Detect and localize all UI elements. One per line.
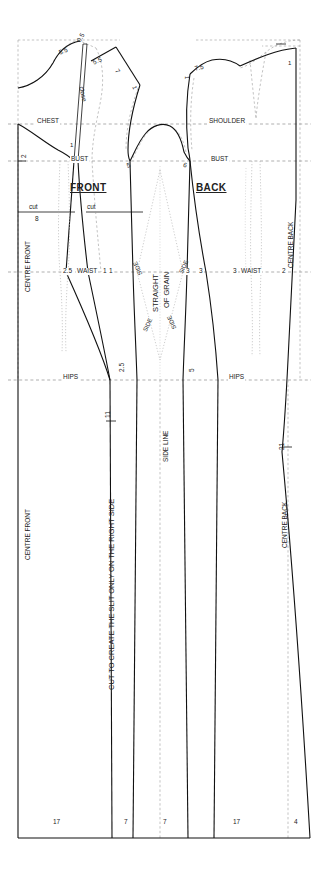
label-centre-back-lower: CENTRE BACK xyxy=(282,502,289,548)
cut-label-left: cut xyxy=(28,204,39,211)
measure-back-neck-tick: 1 xyxy=(288,60,291,66)
measure-hem-side-b: 7 xyxy=(163,819,167,826)
measure-back-vent: 21 xyxy=(279,443,286,450)
pattern-drawing: .sld{fill:none;stroke:#111;stroke-width:… xyxy=(0,0,319,875)
guideline-label-bust-back: BUST xyxy=(210,156,229,163)
piece-title-front: FRONT xyxy=(70,183,106,193)
measure-hips-front: 2.5 xyxy=(119,363,126,372)
back-bodice xyxy=(187,40,310,838)
label-centre-front-upper: CENTRE FRONT xyxy=(25,241,32,292)
measure-front-dart-tick: 1 xyxy=(70,142,73,148)
label-centre-back-upper: CENTRE BACK xyxy=(288,222,295,268)
measure-side-front-seam: 2 xyxy=(21,154,28,158)
label-slit-note: CUT TO CREATE THE SLIT ONLY ON THE RIGHT… xyxy=(108,499,116,690)
guideline-label-waist-front: WAIST xyxy=(76,268,98,275)
cut-label-right: cut xyxy=(86,204,97,211)
side-panel xyxy=(130,124,190,838)
measure-waist-back: 2 xyxy=(281,268,287,275)
measure-waist-back-dart: 3 xyxy=(232,268,238,275)
pattern-sheet: .sld{fill:none;stroke:#111;stroke-width:… xyxy=(0,0,319,875)
measure-waist-front-dart-b: 1 xyxy=(108,268,114,275)
measure-hem-back: 17 xyxy=(233,819,240,826)
guideline-label-waist-back: WAIST xyxy=(240,268,262,275)
label-straight-of-grain-1: STRAIGHT xyxy=(152,274,160,312)
guideline-label-hips-back: HIPS xyxy=(228,374,245,381)
measure-hem-front: 17 xyxy=(53,819,60,826)
measure-bust-front-notch: 5 xyxy=(126,162,131,169)
measure-waist-side-b: 3 xyxy=(198,268,204,275)
label-centre-front-lower: CENTRE FRONT xyxy=(25,509,32,560)
guideline-label-hips-front: HIPS xyxy=(62,374,79,381)
guideline-label-shoulder: SHOULDER xyxy=(208,118,246,125)
tick-marks xyxy=(18,44,286,161)
construction-box xyxy=(18,40,300,380)
measure-waist-front: 2.5 xyxy=(62,268,73,275)
measure-slit-height: 11 xyxy=(105,411,112,418)
measure-waist-side-a: 3 xyxy=(185,268,191,275)
guideline-label-chest: CHEST xyxy=(36,118,60,125)
measure-cut-depth: 8 xyxy=(35,216,39,223)
label-straight-of-grain-2: OF GRAIN xyxy=(163,272,171,308)
measure-waist-front-dart-a: 1 xyxy=(102,268,108,275)
horizontal-guides xyxy=(8,124,311,380)
measure-hem-side-a: 7 xyxy=(124,819,128,826)
measure-hips-side: 5 xyxy=(189,368,196,372)
guideline-label-bust-front: BUST xyxy=(70,156,89,163)
measure-hem-back-flare: 4 xyxy=(294,819,298,826)
measure-back-armhole-tick: 1 xyxy=(184,76,190,79)
piece-title-back: BACK xyxy=(196,183,227,193)
label-side-line: SIDE LINE xyxy=(163,431,170,462)
